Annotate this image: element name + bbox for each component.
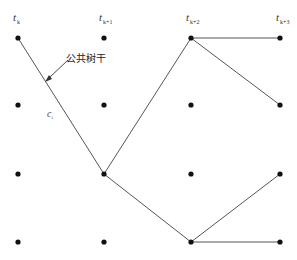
time-label-base: t bbox=[276, 11, 279, 23]
trellis-node bbox=[101, 171, 106, 176]
time-label-sub: k+1 bbox=[103, 19, 112, 25]
time-label-tk2: tk+2 bbox=[186, 12, 199, 25]
trellis-node bbox=[188, 239, 193, 244]
trellis-edge bbox=[104, 174, 191, 242]
time-label-sub: k bbox=[17, 19, 20, 25]
trellis-node bbox=[15, 239, 20, 244]
trellis-node bbox=[15, 171, 20, 176]
trellis-node bbox=[101, 35, 106, 40]
trellis-edge bbox=[104, 38, 191, 174]
time-label-base: t bbox=[13, 11, 16, 23]
trellis-node bbox=[188, 35, 193, 40]
trellis-node bbox=[188, 102, 193, 107]
trellis-nodes bbox=[15, 35, 282, 244]
path-label-ci: ci bbox=[47, 109, 53, 120]
time-label-tk1: tk+1 bbox=[99, 12, 112, 25]
trellis-node bbox=[277, 239, 282, 244]
time-label-base: t bbox=[99, 11, 102, 23]
trellis-node bbox=[188, 171, 193, 176]
time-label-sub: k+2 bbox=[190, 19, 199, 25]
trellis-edges bbox=[18, 38, 280, 242]
time-label-tk: tk bbox=[13, 12, 20, 25]
common-trunk-label: 公共树干 bbox=[66, 54, 106, 64]
trellis-node bbox=[15, 35, 20, 40]
time-label-tk3: tk+3 bbox=[276, 12, 289, 25]
trellis-node bbox=[101, 102, 106, 107]
annotation-arrow bbox=[45, 60, 68, 82]
trellis-edge bbox=[191, 38, 280, 105]
trellis-edge bbox=[191, 174, 280, 242]
trellis-node bbox=[101, 239, 106, 244]
path-label-sub: i bbox=[51, 115, 52, 120]
trellis-node bbox=[277, 35, 282, 40]
trellis-node bbox=[277, 171, 282, 176]
trellis-node bbox=[15, 102, 20, 107]
time-label-base: t bbox=[186, 11, 189, 23]
trellis-node bbox=[277, 102, 282, 107]
trellis-diagram bbox=[0, 0, 297, 260]
time-label-sub: k+3 bbox=[280, 19, 289, 25]
